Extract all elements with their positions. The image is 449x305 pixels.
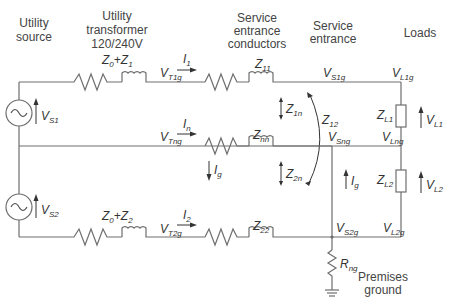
header-text: Service: [237, 11, 277, 25]
label-vs1: VS1: [41, 109, 59, 125]
header-text: entrance: [310, 32, 357, 46]
label-zl2: ZL2: [376, 173, 394, 189]
header-service-entrance-conductors: Service entrance conductors: [228, 11, 287, 51]
label-rng: Rng: [340, 257, 358, 273]
z12-curved-arrow-icon: [305, 92, 320, 186]
header-text: 120/240V: [91, 37, 142, 51]
label-i2: I2: [183, 208, 191, 224]
label-z0-z2: Z0+Z2: [101, 209, 133, 225]
header-premises-ground: Premises ground: [358, 270, 408, 297]
ground-bond-wire: [315, 146, 401, 290]
label-zl1: ZL1: [376, 108, 393, 124]
load-zl1-icon: [396, 105, 406, 127]
ig-arrow-down-icon: [207, 161, 212, 181]
header-text: Premises: [358, 270, 408, 284]
header-text: ground: [364, 283, 401, 297]
conductor-z11: [205, 72, 315, 90]
load-zl2-icon: [396, 170, 406, 192]
header-utility-transformer: Utility transformer 120/240V: [86, 9, 147, 51]
label-z1n: Z1n: [285, 102, 303, 118]
label-ig-left: Ig: [214, 163, 222, 179]
label-znn: Znn: [252, 128, 270, 144]
label-vt1g: VT1g: [160, 66, 182, 82]
label-z22: Z22: [252, 219, 270, 235]
label-in: In: [183, 117, 191, 133]
label-z0-z1: Z0+Z1: [101, 53, 133, 69]
label-vsng: VSng: [328, 130, 351, 146]
vs2-arrow-icon: [34, 194, 39, 218]
header-text: Utility: [102, 9, 131, 23]
header-text: transformer: [86, 23, 147, 37]
vs1-arrow-icon: [34, 98, 39, 124]
circuit-diagram: Utility source Utility transformer 120/2…: [0, 0, 449, 305]
i1-arrow-icon: [177, 68, 197, 73]
ac-source-1-icon: [6, 100, 32, 126]
header-service-entrance: Service entrance: [310, 19, 357, 46]
label-i1: I1: [183, 52, 191, 68]
header-text: Service: [313, 19, 353, 33]
label-z2n: Z2n: [285, 167, 303, 183]
header-text: source: [16, 30, 52, 44]
ig-arrow-up-icon: [344, 169, 349, 189]
vl2-arrow-icon: [419, 171, 424, 193]
label-vl1: VL1: [426, 113, 443, 129]
label-vs2g: VS2g: [336, 221, 359, 237]
label-vt2g: VT2g: [160, 222, 182, 238]
header-text: entrance: [234, 24, 281, 38]
label-vl1g: VL1g: [392, 66, 414, 82]
label-vs2: VS2: [41, 203, 59, 219]
label-z11: Z11: [254, 57, 271, 73]
transformer-impedance-1: [70, 72, 205, 90]
label-vtng: VTng: [160, 130, 182, 146]
z1n-double-arrow-icon: [279, 97, 283, 120]
junction-dot: [330, 235, 333, 238]
vl1-arrow-icon: [419, 106, 424, 128]
label-z12: Z12: [321, 113, 339, 129]
header-text: conductors: [228, 37, 287, 51]
header-loads: Loads: [404, 26, 437, 40]
label-vs1g: VS1g: [323, 66, 346, 82]
transformer-impedance-2: [70, 227, 205, 245]
header-utility-source: Utility source: [16, 16, 52, 44]
label-ig-right: Ig: [351, 174, 359, 190]
label-vl2: VL2: [426, 178, 443, 194]
header-text: Utility: [19, 16, 48, 30]
z2n-double-arrow-icon: [279, 161, 283, 186]
label-vl2g: VL2g: [383, 221, 405, 237]
ac-source-2-icon: [6, 194, 32, 220]
ground-symbol-icon: [325, 290, 339, 296]
load-column: [315, 82, 401, 237]
